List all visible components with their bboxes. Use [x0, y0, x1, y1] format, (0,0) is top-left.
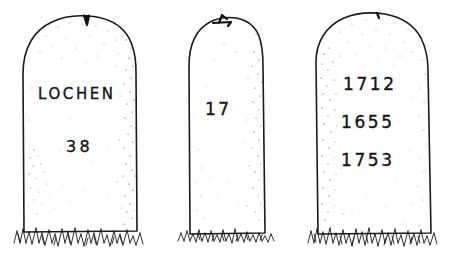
stone-left-inscription-name: LOCHEN	[38, 85, 116, 103]
stone-right-inscription-date-2: 1655	[341, 112, 395, 132]
drawing-canvas: LOCHEN 38	[0, 0, 450, 253]
stone-middle-inscription-number: 17	[205, 99, 231, 119]
stone-right-inscription-date-3: 1753	[341, 150, 395, 170]
stone-left-inscription-number: 38	[66, 137, 93, 156]
stone-left-outline	[23, 16, 137, 232]
stones-illustration: LOCHEN 38	[0, 0, 450, 253]
stone-left: LOCHEN 38	[23, 15, 137, 232]
stone-middle-outline	[189, 18, 265, 234]
stone-middle: 17	[189, 15, 265, 234]
stone-right-inscription-date-1: 1712	[343, 74, 397, 94]
stone-right: 1712 1655 1753	[316, 13, 431, 234]
